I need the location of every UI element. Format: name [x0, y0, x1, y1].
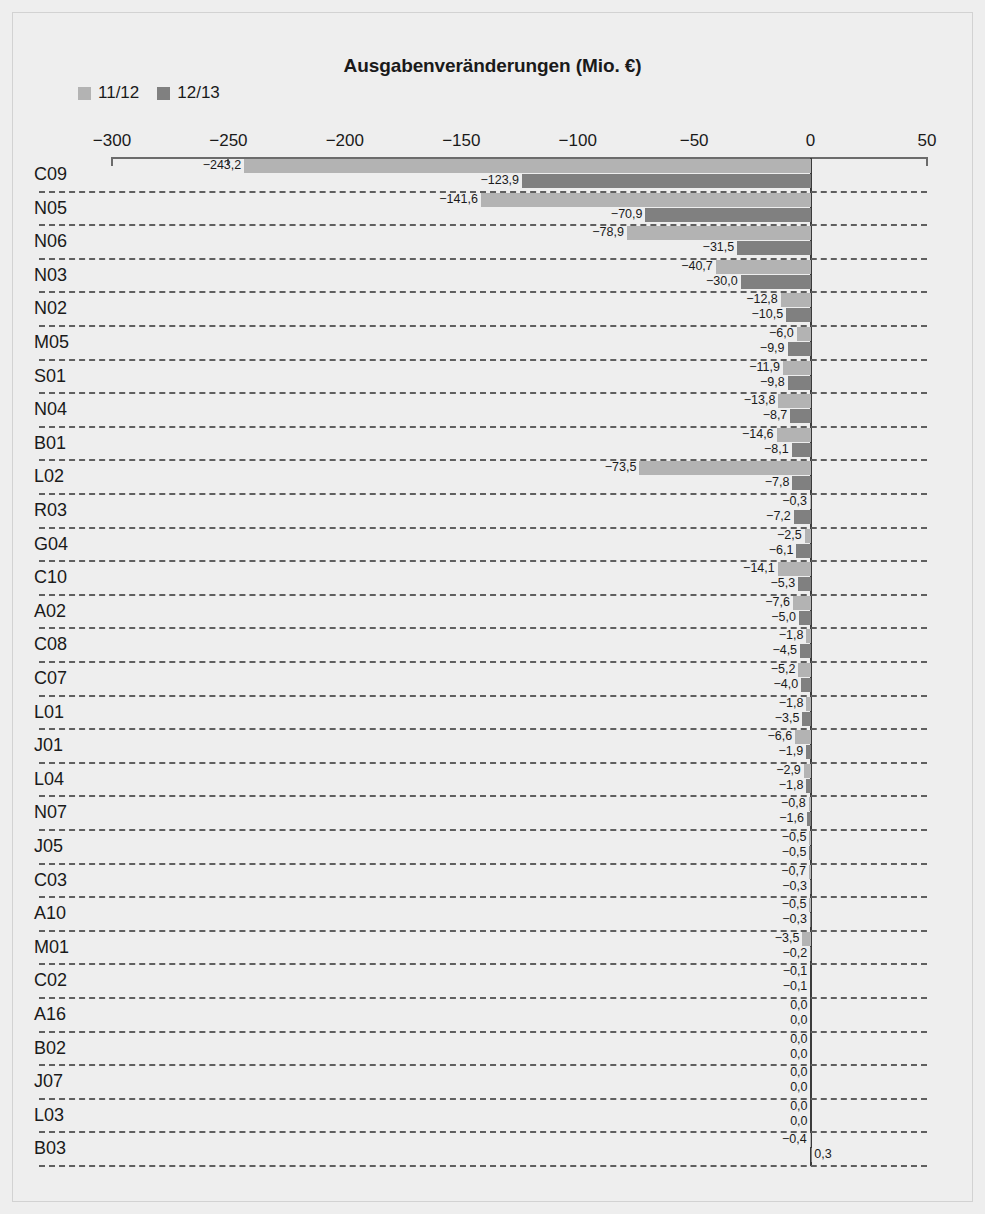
chart-row: L04−2,9−1,8 — [112, 763, 927, 799]
bar-value-label: −0,5 — [782, 845, 810, 859]
bar-J05-11-12[interactable] — [809, 831, 810, 845]
category-label-J05: J05 — [34, 836, 100, 857]
bar-value-label: −2,9 — [776, 763, 804, 777]
bar-value-label: −9,9 — [760, 341, 788, 355]
chart-row: J01−6,6−1,9 — [112, 729, 927, 765]
bar-L04-12-13[interactable] — [806, 779, 810, 793]
bar-J01-11-12[interactable] — [795, 730, 810, 744]
bar-B01-11-12[interactable] — [777, 428, 811, 442]
bar-B03-11-12[interactable] — [810, 1133, 811, 1147]
bar-value-label: −0,1 — [783, 964, 811, 978]
bar-N07-11-12[interactable] — [809, 797, 811, 811]
bar-C07-12-13[interactable] — [801, 678, 810, 692]
x-axis-tick-label: 50 — [918, 131, 937, 151]
legend-label: 12/13 — [177, 83, 220, 103]
bar-G04-12-13[interactable] — [796, 544, 810, 558]
chart-row: A02−7,6−5,0 — [112, 595, 927, 631]
category-label-N05: N05 — [34, 198, 100, 219]
bar-L01-11-12[interactable] — [806, 697, 810, 711]
legend-item-11-12[interactable]: 11/12 — [78, 83, 139, 103]
bar-value-label: −9,8 — [760, 375, 788, 389]
bar-C08-12-13[interactable] — [800, 644, 810, 658]
bar-N05-12-13[interactable] — [645, 208, 810, 222]
bar-N06-12-13[interactable] — [737, 241, 810, 255]
bar-value-label: −13,8 — [744, 393, 779, 407]
bar-value-label: −4,0 — [774, 677, 802, 691]
legend-item-12-13[interactable]: 12/13 — [157, 83, 220, 103]
bar-N02-12-13[interactable] — [786, 308, 810, 322]
bar-G04-11-12[interactable] — [805, 529, 811, 543]
bar-B01-12-13[interactable] — [792, 443, 811, 457]
bar-R03-12-13[interactable] — [794, 510, 811, 524]
category-label-A10: A10 — [34, 903, 100, 924]
bar-value-label: −0,8 — [781, 796, 809, 810]
chart-row: B03−0,40,3 — [112, 1132, 927, 1168]
chart-row: L030,00,0 — [112, 1099, 927, 1135]
chart-row: G04−2,5−6,1 — [112, 528, 927, 564]
category-label-B01: B01 — [34, 433, 100, 454]
bar-A02-12-13[interactable] — [799, 611, 811, 625]
bar-value-label: −0,7 — [781, 864, 809, 878]
category-label-R03: R03 — [34, 500, 100, 521]
bar-C03-12-13[interactable] — [810, 880, 811, 894]
bar-value-label: −7,6 — [765, 595, 793, 609]
bar-N04-12-13[interactable] — [790, 409, 810, 423]
bar-J05-12-13[interactable] — [809, 846, 810, 860]
bar-C03-11-12[interactable] — [809, 865, 811, 879]
x-axis-tick-label: −50 — [680, 131, 709, 151]
bar-L01-12-13[interactable] — [802, 712, 810, 726]
bar-value-label: −78,9 — [592, 225, 627, 239]
category-label-B02: B02 — [34, 1038, 100, 1059]
chart-legend: 11/1212/13 — [78, 83, 220, 103]
bar-M05-11-12[interactable] — [797, 327, 811, 341]
chart-figure: Ausgabenveränderungen (Mio. €) 11/1212/1… — [0, 0, 985, 1214]
bar-S01-12-13[interactable] — [788, 376, 811, 390]
chart-row: C09−243,2−123,9 — [112, 158, 927, 194]
bar-value-label: 0,0 — [790, 1047, 810, 1061]
bar-N05-11-12[interactable] — [481, 193, 811, 207]
bar-C10-11-12[interactable] — [778, 562, 811, 576]
category-label-A02: A02 — [34, 601, 100, 622]
bar-value-label: −1,9 — [778, 744, 806, 758]
bar-A10-11-12[interactable] — [809, 898, 810, 912]
bar-N06-11-12[interactable] — [627, 226, 811, 240]
plot-area: C09−243,2−123,9N05−141,6−70,9N06−78,9−31… — [112, 158, 927, 1166]
bar-value-label: −7,8 — [765, 475, 793, 489]
bar-M05-12-13[interactable] — [788, 342, 811, 356]
bar-N02-11-12[interactable] — [781, 293, 811, 307]
bar-value-label: −0,5 — [782, 897, 810, 911]
chart-row: B01−14,6−8,1 — [112, 427, 927, 463]
x-axis-tick-label: −150 — [442, 131, 480, 151]
bar-L02-11-12[interactable] — [639, 461, 810, 475]
bar-A02-11-12[interactable] — [793, 596, 811, 610]
category-label-N06: N06 — [34, 231, 100, 252]
bar-value-label: 0,3 — [811, 1147, 831, 1161]
bar-L02-12-13[interactable] — [792, 476, 810, 490]
x-axis-tick-label: −300 — [93, 131, 131, 151]
bar-N04-11-12[interactable] — [778, 394, 810, 408]
bar-L04-11-12[interactable] — [804, 764, 811, 778]
bar-value-label: −1,6 — [779, 811, 807, 825]
chart-row: A160,00,0 — [112, 998, 927, 1034]
bar-M01-11-12[interactable] — [802, 932, 810, 946]
bar-J01-12-13[interactable] — [806, 745, 810, 759]
bar-value-label: −0,5 — [782, 830, 810, 844]
bar-value-label: −10,5 — [751, 307, 786, 321]
bar-S01-11-12[interactable] — [783, 361, 811, 375]
category-label-J07: J07 — [34, 1071, 100, 1092]
bar-C09-12-13[interactable] — [522, 174, 811, 188]
bar-C10-12-13[interactable] — [798, 577, 810, 591]
bar-C08-11-12[interactable] — [806, 629, 810, 643]
bar-C09-11-12[interactable] — [244, 159, 810, 173]
chart-row: C07−5,2−4,0 — [112, 662, 927, 698]
bar-N07-12-13[interactable] — [807, 812, 811, 826]
bar-value-label: −1,8 — [779, 778, 807, 792]
bar-value-label: 0,0 — [790, 998, 810, 1012]
chart-row: N05−141,6−70,9 — [112, 192, 927, 228]
bar-C07-11-12[interactable] — [798, 663, 810, 677]
bar-R03-11-12[interactable] — [810, 495, 811, 509]
bar-N03-11-12[interactable] — [716, 260, 811, 274]
bar-A10-12-13[interactable] — [810, 913, 811, 927]
bar-N03-12-13[interactable] — [741, 275, 811, 289]
chart-row: S01−11,9−9,8 — [112, 360, 927, 396]
